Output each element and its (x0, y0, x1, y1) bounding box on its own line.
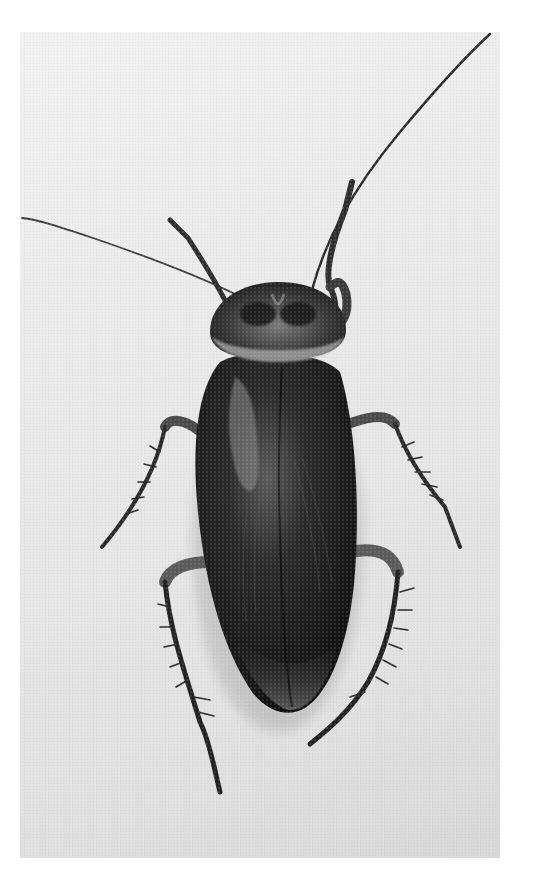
photo-frame (20, 32, 500, 858)
left-middle-tibia (102, 427, 165, 547)
antennae (22, 34, 490, 294)
left-antenna (22, 218, 235, 294)
right-antenna (312, 34, 490, 290)
pronotum-marking-right (280, 302, 316, 326)
pronotum-marking-left (240, 302, 276, 326)
cockroach-photo (20, 32, 500, 858)
left-middle-femur (165, 421, 198, 430)
